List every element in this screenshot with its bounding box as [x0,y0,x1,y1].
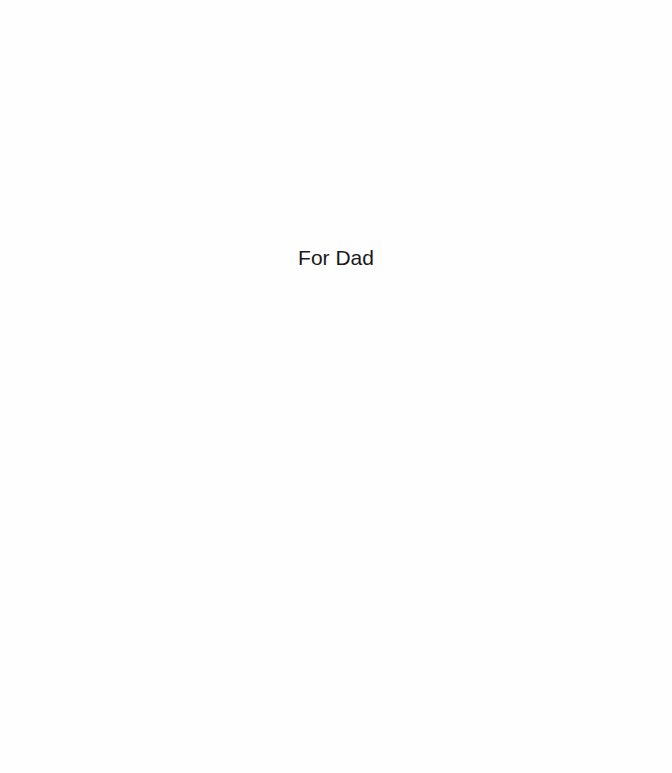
dedication-text: For Dad [0,246,672,270]
